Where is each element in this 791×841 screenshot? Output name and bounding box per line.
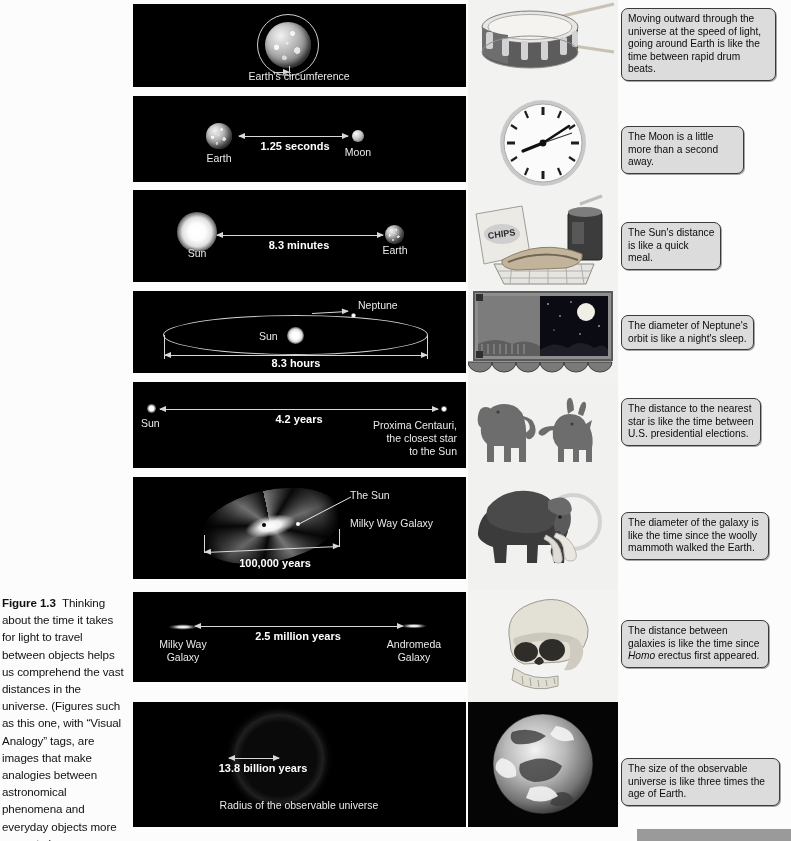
andromeda-galaxy-icon <box>398 619 430 633</box>
sun-earth-distance-arrow <box>217 235 383 236</box>
quick-meal-photo: CHIPS <box>468 192 618 290</box>
figure-page: Figure 1.3 Thinking about the time it ta… <box>0 0 791 841</box>
callout-text-post: erectus first appeared. <box>655 650 759 661</box>
neptune-body-icon <box>351 313 356 318</box>
election-animals-photo <box>468 382 618 477</box>
milky-way-galaxy-label: Milky Way Galaxy <box>350 517 433 530</box>
callout-earth-moon: The Moon is a little more than a second … <box>621 126 744 174</box>
sun-body-icon <box>147 404 156 413</box>
callout-text-italic: Homo <box>628 650 655 661</box>
callout-milky-way-diameter: The diameter of the galaxy is like the t… <box>621 512 769 560</box>
neptune-label: Neptune <box>358 299 398 312</box>
proxima-centauri-body-icon <box>441 406 447 412</box>
universe-radius-caption: Radius of the observable universe <box>220 799 379 812</box>
figure-caption-body: Thinking about the time it takes for lig… <box>2 596 124 841</box>
diagram-panel-observable-universe: 13.8 billion years Radius of the observa… <box>133 702 466 827</box>
diagram-panel-neptune-orbit: Sun Neptune 8.3 hours <box>133 291 466 373</box>
callout-text-pre: The distance between galaxies is like th… <box>628 625 759 649</box>
neptune-pointer-arrow <box>312 311 348 314</box>
sun-label: Sun <box>188 247 207 260</box>
the-sun-label: The Sun <box>350 489 390 502</box>
andromeda-galaxy-label: Andromeda Galaxy <box>387 638 441 664</box>
night-window-photo <box>468 290 618 382</box>
neptune-orbit-value: 8.3 hours <box>272 357 321 370</box>
galaxy-separation-value: 2.5 million years <box>255 630 341 643</box>
moon-label: Moon <box>345 146 371 159</box>
diagram-panel-milky-way-diameter: The Sun Milky Way Galaxy 100,000 years <box>133 477 466 579</box>
milky-way-galaxy-label: Milky Way Galaxy <box>159 638 206 664</box>
sun-earth-distance-value: 8.3 minutes <box>269 239 330 252</box>
sun-label: Sun <box>259 330 278 343</box>
earth-from-space-photo <box>468 702 618 827</box>
snare-drum-photo <box>468 0 618 95</box>
earth-moon-distance-value: 1.25 seconds <box>260 140 329 153</box>
bottom-gray-bar <box>637 829 791 841</box>
proxima-distance-arrow <box>160 409 438 410</box>
callout-sun-earth: The Sun's distance is like a quick meal. <box>621 222 721 270</box>
sun-label: Sun <box>141 417 160 430</box>
earth-moon-distance-arrow <box>239 136 348 137</box>
figure-caption: Figure 1.3 Thinking about the time it ta… <box>2 594 128 841</box>
diagram-panel-proxima-centauri: Sun 4.2 years Proxima Centauri, the clos… <box>133 382 466 468</box>
galaxy-diameter-value: 100,000 years <box>239 557 311 570</box>
callout-neptune-orbit: The diameter of Neptune's orbit is like … <box>621 315 754 350</box>
wall-clock-photo <box>468 95 618 192</box>
earth-label: Earth <box>206 152 231 165</box>
diagram-panel-sun-earth: Sun 8.3 minutes Earth <box>133 190 466 282</box>
callout-earth-circumference: Moving outward through the universe at t… <box>621 8 776 81</box>
callout-milky-way-andromeda: The distance between galaxies is like th… <box>621 620 769 668</box>
earth-body-icon <box>265 22 311 68</box>
neptune-orbit-diameter-arrow <box>165 355 427 356</box>
galactic-center-dot <box>262 523 266 527</box>
callout-observable-universe: The size of the observable universe is l… <box>621 758 780 806</box>
proxima-centauri-label: Proxima Centauri, the closest star to th… <box>333 419 457 458</box>
sun-body-icon <box>287 327 304 344</box>
galaxy-separation-arrow <box>195 626 403 627</box>
callout-proxima-centauri: The distance to the nearest star is like… <box>621 398 761 446</box>
figure-label: Figure 1.3 <box>2 596 56 609</box>
earth-label: Earth <box>382 244 407 257</box>
woolly-mammoth-photo <box>468 477 618 590</box>
homo-erectus-skull-photo <box>468 590 618 702</box>
diagram-panel-milky-way-andromeda: Milky Way Galaxy 2.5 million years Andro… <box>133 592 466 682</box>
diagram-panel-earth-moon: Earth 1.25 seconds Moon <box>133 96 466 182</box>
universe-radius-arrow <box>229 758 279 759</box>
moon-body-icon <box>352 130 364 142</box>
earth-body-icon <box>206 123 232 149</box>
diagram-panel-earth-circumference: Earth's circumference 1/7 second <box>133 4 466 87</box>
proxima-distance-value: 4.2 years <box>275 413 322 426</box>
earth-circumference-value: 1/7 second <box>260 75 339 87</box>
sun-body-icon <box>177 212 217 252</box>
earth-body-icon <box>385 225 404 244</box>
sun-pointer-line <box>293 495 353 527</box>
universe-radius-value: 13.8 billion years <box>219 762 308 775</box>
